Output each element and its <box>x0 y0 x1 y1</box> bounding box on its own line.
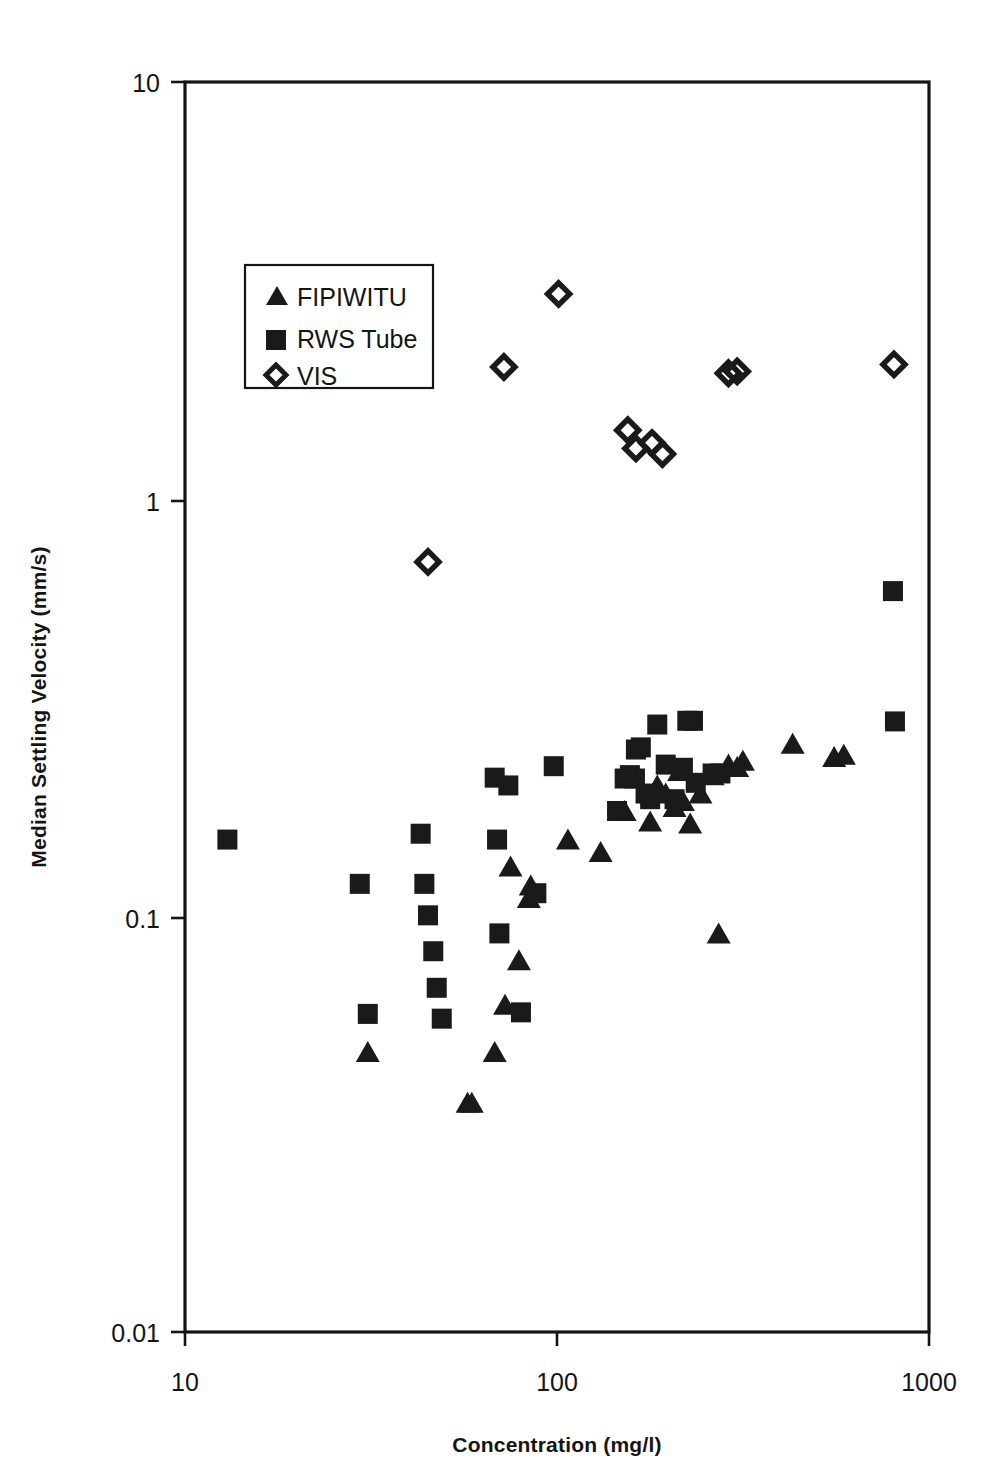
x-tick-label: 100 <box>536 1368 578 1396</box>
data-point-square <box>526 883 546 903</box>
data-point-square <box>350 874 370 894</box>
x-axis-title: Concentration (mg/l) <box>452 1433 661 1456</box>
data-point-square <box>683 711 703 731</box>
chart-figure: 10 1 0.1 0.01 10 100 1000 Concentration … <box>0 0 1008 1483</box>
data-point-square <box>511 1002 531 1022</box>
data-point-square <box>665 789 685 809</box>
data-point-square <box>710 763 730 783</box>
data-point-square <box>411 824 431 844</box>
x-tick-label: 1000 <box>901 1368 957 1396</box>
square-icon <box>266 330 286 350</box>
legend-label: RWS Tube <box>297 325 417 353</box>
data-point-square <box>883 581 903 601</box>
data-point-square <box>631 737 651 757</box>
y-tick-label: 0.1 <box>125 905 160 933</box>
legend-label: VIS <box>297 362 337 390</box>
data-point-square <box>418 905 438 925</box>
legend: FIPIWITU RWS Tube VIS <box>245 265 433 390</box>
legend-label: FIPIWITU <box>297 283 407 311</box>
x-tick-label: 10 <box>171 1368 199 1396</box>
y-tick-label: 1 <box>146 488 160 516</box>
data-point-square <box>498 775 518 795</box>
data-point-square <box>414 874 434 894</box>
data-point-square <box>647 715 667 735</box>
data-point-square <box>640 789 660 809</box>
y-tick-label: 10 <box>132 69 160 97</box>
data-point-square <box>487 830 507 850</box>
scatter-plot: 10 1 0.1 0.01 10 100 1000 Concentration … <box>0 0 1008 1483</box>
data-point-square <box>489 923 509 943</box>
data-point-square <box>885 711 905 731</box>
data-point-square <box>217 830 237 850</box>
y-axis-title: Median Settling Velocity (mm/s) <box>27 546 50 867</box>
data-point-square <box>544 756 564 776</box>
data-point-square <box>423 941 443 961</box>
data-point-square <box>427 978 447 998</box>
data-point-square <box>358 1004 378 1024</box>
data-point-square <box>432 1009 452 1029</box>
y-tick-label: 0.01 <box>111 1319 160 1347</box>
data-point-square <box>656 755 676 775</box>
data-point-square <box>607 801 627 821</box>
chart-background <box>0 0 1008 1483</box>
